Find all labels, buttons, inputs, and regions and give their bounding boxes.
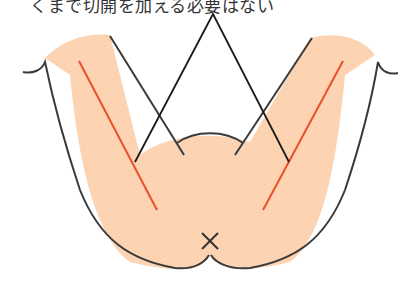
anatomical-diagram <box>0 0 415 288</box>
body-shape <box>45 35 375 269</box>
